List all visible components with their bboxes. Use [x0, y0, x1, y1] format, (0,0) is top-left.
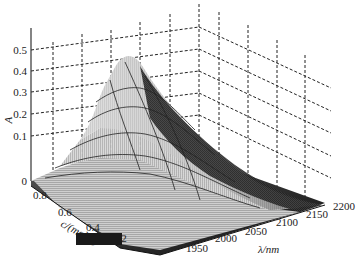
z-tick-0: 0 — [22, 175, 28, 187]
z-tick-0.5: 0.5 — [13, 44, 27, 56]
lambda-tick-2100: 2100 — [276, 216, 299, 228]
z-tick-0.2: 0.2 — [13, 108, 27, 120]
redaction-bar — [76, 233, 122, 245]
lambda-tick-2000: 2000 — [215, 232, 238, 244]
lambda-tick-2200: 2200 — [333, 200, 356, 212]
lambda-tick-1950: 1950 — [186, 242, 209, 254]
lambda-tick-2150: 2150 — [306, 208, 329, 220]
c-tick-0.8: 0.8 — [33, 189, 47, 201]
c-tick-0.6: 0.6 — [58, 206, 72, 218]
z-tick-0.3: 0.3 — [13, 86, 27, 98]
lambda-axis-label: λ/nm — [257, 243, 279, 255]
surface-plot: 0.5 0.4 0.3 0.2 0.1 0 A 0.8 0.6 0.4 0.2 … — [0, 0, 358, 260]
z-axis-label: A — [2, 116, 14, 124]
z-tick-0.1: 0.1 — [13, 130, 27, 142]
lambda-tick-2050: 2050 — [245, 225, 268, 237]
z-axis-ticks: 0.5 0.4 0.3 0.2 0.1 0 — [13, 44, 27, 187]
z-tick-0.4: 0.4 — [13, 65, 27, 77]
